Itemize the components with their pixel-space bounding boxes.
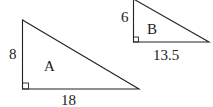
triangles-diagram: A 8 18 B 6 13.5 — [0, 0, 213, 107]
triangle-a-label: A — [44, 58, 55, 74]
triangle-b: B 6 13.5 — [121, 0, 209, 63]
triangle-b-label: B — [147, 21, 157, 37]
triangle-a-base-label: 18 — [61, 92, 76, 107]
right-angle-marker-a — [23, 83, 29, 89]
triangle-a: A 8 18 — [9, 20, 139, 107]
triangle-b-base-label: 13.5 — [153, 47, 179, 63]
triangle-a-height-label: 8 — [9, 46, 17, 62]
right-angle-marker-b — [134, 37, 139, 42]
triangle-b-height-label: 6 — [121, 9, 129, 25]
diagram-canvas: A 8 18 B 6 13.5 — [0, 0, 213, 107]
